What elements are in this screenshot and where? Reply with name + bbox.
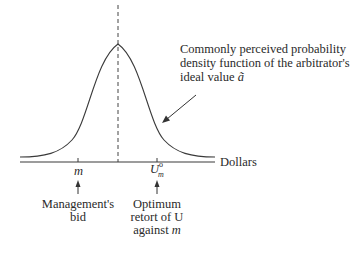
annotation-arrow-icon — [162, 95, 196, 123]
tick-label-m: m — [74, 165, 83, 178]
u-superscript: o — [159, 160, 163, 169]
arrow-up-icon-m — [76, 180, 81, 194]
axis-label-dollars: Dollars — [220, 156, 257, 169]
annotation-line-3: ideal value ã — [180, 70, 350, 84]
annotation-line-1: Commonly perceived probability — [180, 42, 350, 56]
arrow-up-icon-u — [155, 180, 160, 194]
caption-optimum-retort: Optimum retort of U against m — [122, 198, 192, 237]
caption-management-bid: Management's bid — [38, 198, 118, 224]
annotation-text: Commonly perceived probability density f… — [180, 42, 350, 84]
annotation-line-2: density function of the arbitrator's — [180, 56, 350, 70]
tick-label-u: Uom — [150, 163, 169, 177]
u-subscript: m — [158, 170, 164, 179]
a-tilde-symbol: ã — [238, 70, 244, 84]
